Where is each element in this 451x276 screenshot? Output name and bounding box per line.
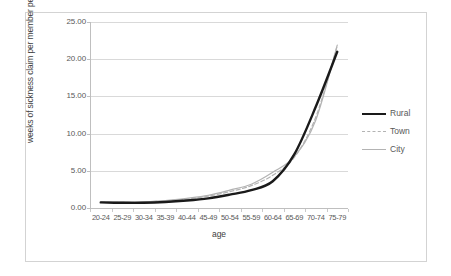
y-tick-label: 0.00 bbox=[48, 203, 86, 212]
legend-item-town: Town bbox=[362, 122, 424, 140]
legend-label-rural: Rural bbox=[386, 108, 410, 118]
x-tick-label: 45-49 bbox=[198, 212, 220, 226]
legend-label-town: Town bbox=[386, 126, 410, 136]
chart-legend: Rural Town City bbox=[362, 104, 424, 158]
chart-container: weeks of sickness claim per member per a… bbox=[0, 0, 451, 276]
x-tick-label: 55-59 bbox=[241, 212, 263, 226]
x-tick-label: 40-44 bbox=[176, 212, 198, 226]
x-tick-label: 25-29 bbox=[112, 212, 134, 226]
x-tick-mark bbox=[348, 209, 349, 212]
x-tick-label: 65-69 bbox=[284, 212, 306, 226]
series-line-rural bbox=[101, 52, 338, 203]
y-tick-label: 5.00 bbox=[48, 166, 86, 175]
series-line-town bbox=[101, 46, 338, 203]
x-tick-label: 50-54 bbox=[219, 212, 241, 226]
plot-series-area bbox=[90, 22, 348, 209]
x-tick-label: 75-79 bbox=[327, 212, 349, 226]
x-axis-labels: 20-2425-2930-3435-3940-4445-4950-5455-59… bbox=[90, 212, 348, 226]
x-tick-label: 70-74 bbox=[305, 212, 327, 226]
x-tick-label: 20-24 bbox=[90, 212, 112, 226]
x-tick-label: 35-39 bbox=[155, 212, 177, 226]
legend-swatch-city-icon bbox=[362, 144, 386, 154]
legend-swatch-town-icon bbox=[362, 126, 386, 136]
x-tick-label: 30-34 bbox=[133, 212, 155, 226]
x-tick-label: 60-64 bbox=[262, 212, 284, 226]
legend-label-city: City bbox=[386, 144, 405, 154]
y-tick-label: 10.00 bbox=[48, 129, 86, 138]
legend-swatch-rural-icon bbox=[362, 108, 386, 118]
y-tick-label: 15.00 bbox=[48, 91, 86, 100]
y-axis-title: weeks of sickness claim per member per a… bbox=[25, 0, 35, 143]
y-tick-label: 25.00 bbox=[48, 17, 86, 26]
series-line-city bbox=[101, 45, 338, 202]
x-axis-title: age bbox=[90, 229, 348, 239]
legend-item-rural: Rural bbox=[362, 104, 424, 122]
y-tick-label: 20.00 bbox=[48, 54, 86, 63]
legend-item-city: City bbox=[362, 140, 424, 158]
